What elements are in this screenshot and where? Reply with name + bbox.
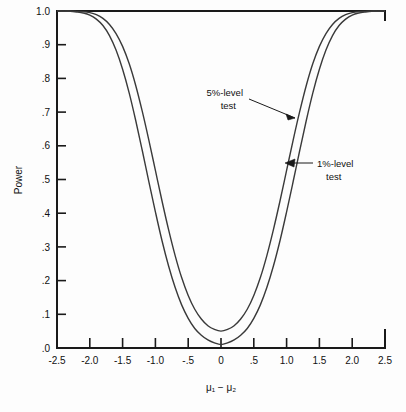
x-tick-label: -1.5: [114, 355, 132, 366]
x-tick-label: .5: [250, 355, 259, 366]
y-tick-label: .4: [42, 208, 51, 219]
x-tick-label: 1.5: [312, 355, 326, 366]
annotation-5pct-line2: test: [221, 100, 237, 111]
y-tick-label: .5: [42, 174, 51, 185]
y-tick-label: .3: [42, 242, 51, 253]
y-tick-label: .8: [42, 73, 51, 84]
power-curve-figure: .0.1.2.3.4.5.6.7.8.91.0 -2.5-2.0-1.5-1.0…: [0, 0, 406, 412]
y-tick-label: .0: [42, 343, 51, 354]
y-axis-title: Power: [13, 165, 24, 194]
x-tick-label: 1.0: [280, 355, 294, 366]
annotation-1pct-line1: 1%-level: [317, 158, 353, 169]
y-tick-label: .1: [42, 309, 51, 320]
x-tick-label: -.5: [182, 355, 194, 366]
y-tick-label: .7: [42, 107, 51, 118]
x-tick-label: 2.0: [345, 355, 359, 366]
y-axis-ticks: [57, 45, 66, 315]
x-tick-label: -2.0: [81, 355, 99, 366]
x-tick-label: -2.5: [48, 355, 66, 366]
chart-canvas: .0.1.2.3.4.5.6.7.8.91.0 -2.5-2.0-1.5-1.0…: [0, 0, 406, 412]
y-tick-label: 1.0: [36, 6, 50, 17]
annotation-5pct-line1: 5%-level: [207, 87, 243, 98]
y-tick-label: .2: [42, 275, 51, 286]
x-axis-title: μ₁ − μ₂: [206, 382, 236, 393]
x-axis-tick-labels: -2.5-2.0-1.5-1.0-.50.51.01.52.02.5: [48, 355, 392, 366]
x-tick-label: -1.0: [147, 355, 165, 366]
x-tick-label: 0: [218, 355, 224, 366]
annotation-1pct-arrowhead: [285, 159, 295, 167]
x-axis-ticks: [57, 336, 385, 348]
y-tick-label: .9: [42, 39, 51, 50]
x-tick-label: 2.5: [378, 355, 392, 366]
y-tick-label: .6: [42, 140, 51, 151]
annotation-1pct-line2: test: [326, 171, 342, 182]
y-axis-tick-labels: .0.1.2.3.4.5.6.7.8.91.0: [36, 6, 50, 354]
annotation-5pct-level-test: 5%-level test: [207, 87, 295, 120]
